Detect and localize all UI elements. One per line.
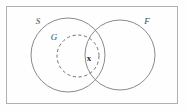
set-label-f: F [143, 16, 150, 26]
element-label-x: x [87, 53, 92, 63]
set-circle-g [57, 35, 99, 77]
set-label-s: S [36, 16, 41, 26]
venn-diagram-canvas: S F G x [0, 0, 188, 112]
set-circle-s [31, 18, 105, 92]
set-circle-f [85, 20, 155, 90]
set-label-g: G [51, 32, 58, 42]
outer-frame [7, 7, 178, 104]
venn-diagram-figure: S F G x [0, 0, 188, 112]
